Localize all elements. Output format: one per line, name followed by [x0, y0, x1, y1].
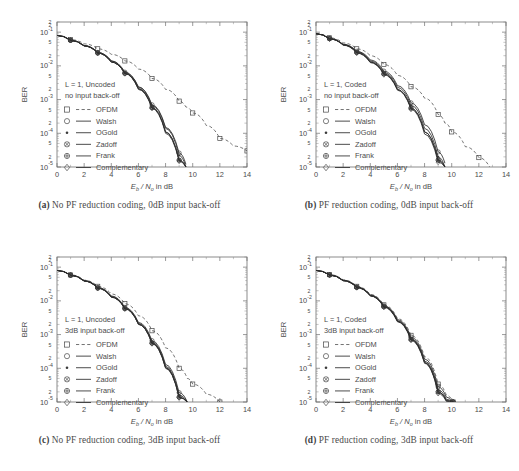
caption-b: (b) PF reduction coding, 0dB input back-…: [259, 200, 519, 210]
svg-text:-3: -3: [48, 328, 53, 334]
svg-text:3dB input back-off: 3dB input back-off: [65, 326, 125, 335]
svg-text:Eb / No in dB: Eb / No in dB: [131, 182, 173, 192]
svg-text:10: 10: [40, 364, 48, 373]
svg-text:5: 5: [308, 39, 311, 45]
svg-text:OFDM: OFDM: [355, 340, 377, 349]
svg-text:10: 10: [40, 296, 48, 305]
svg-text:2: 2: [49, 22, 52, 28]
svg-text:10: 10: [448, 170, 456, 179]
svg-text:-5: -5: [48, 395, 53, 401]
svg-text:2: 2: [82, 405, 86, 414]
svg-text:8: 8: [423, 405, 427, 414]
svg-text:L = 1, Coded: L = 1, Coded: [324, 80, 366, 89]
svg-text:14: 14: [243, 405, 251, 414]
svg-text:OFDM: OFDM: [96, 340, 118, 349]
svg-text:10: 10: [40, 330, 48, 339]
svg-text:5: 5: [308, 107, 311, 113]
svg-text:10: 10: [40, 61, 48, 70]
svg-text:5: 5: [308, 342, 311, 348]
svg-text:5: 5: [49, 342, 52, 348]
svg-text:Zadoff: Zadoff: [355, 375, 377, 384]
svg-text:2: 2: [49, 257, 52, 263]
svg-text:-2: -2: [307, 59, 312, 65]
svg-text:Complementary: Complementary: [355, 163, 407, 172]
svg-text:0: 0: [314, 405, 318, 414]
svg-text:10: 10: [40, 28, 48, 37]
caption-c: (c) No PF reduction coding, 3dB input ba…: [0, 435, 259, 445]
svg-text:BER: BER: [279, 321, 288, 337]
panel-d: 0246810121410-1210-25210-35210-45210-552…: [259, 235, 519, 471]
svg-text:8: 8: [164, 170, 168, 179]
svg-text:10: 10: [299, 364, 307, 373]
svg-text:2: 2: [308, 22, 311, 28]
svg-text:12: 12: [216, 405, 224, 414]
svg-text:OFDM: OFDM: [355, 105, 377, 114]
svg-text:10: 10: [40, 263, 48, 272]
svg-text:-5: -5: [307, 395, 312, 401]
svg-text:5: 5: [49, 274, 52, 280]
svg-text:2: 2: [308, 86, 311, 92]
svg-text:-4: -4: [48, 127, 53, 133]
svg-text:-3: -3: [307, 328, 312, 334]
svg-text:2: 2: [341, 170, 345, 179]
svg-text:10: 10: [299, 28, 307, 37]
svg-text:Frank: Frank: [355, 151, 374, 160]
svg-text:10: 10: [189, 170, 197, 179]
svg-text:Walsh: Walsh: [355, 352, 375, 361]
caption-a-text: No PF reduction coding, 0dB input back-o…: [52, 200, 221, 210]
svg-text:2: 2: [49, 321, 52, 327]
svg-text:10: 10: [40, 95, 48, 104]
svg-text:2: 2: [49, 86, 52, 92]
svg-text:L = 1, Coded: L = 1, Coded: [324, 315, 366, 324]
panel-a: 0246810121410-1210-25210-35210-45210-552…: [0, 0, 259, 235]
svg-text:Frank: Frank: [355, 386, 374, 395]
plot-b: 0246810121410-1210-25210-35210-45210-552…: [259, 0, 519, 196]
svg-text:10: 10: [299, 163, 307, 172]
svg-text:12: 12: [475, 405, 483, 414]
svg-text:BER: BER: [20, 321, 29, 337]
svg-text:2: 2: [308, 120, 311, 126]
svg-text:5: 5: [49, 107, 52, 113]
svg-text:OFDM: OFDM: [96, 105, 118, 114]
caption-b-label: (b): [305, 200, 317, 210]
svg-text:Zadoff: Zadoff: [96, 375, 118, 384]
svg-text:0: 0: [55, 170, 59, 179]
svg-text:Walsh: Walsh: [355, 117, 375, 126]
svg-text:Complementary: Complementary: [96, 398, 148, 407]
svg-text:10: 10: [299, 129, 307, 138]
svg-text:BER: BER: [279, 86, 288, 102]
svg-text:2: 2: [49, 154, 52, 160]
svg-text:10: 10: [448, 405, 456, 414]
svg-text:Zadoff: Zadoff: [96, 140, 118, 149]
svg-text:2: 2: [308, 321, 311, 327]
svg-text:Eb / No in dB: Eb / No in dB: [131, 417, 173, 427]
svg-text:14: 14: [502, 170, 510, 179]
svg-text:2: 2: [82, 170, 86, 179]
svg-text:OGold: OGold: [96, 128, 117, 137]
svg-text:0: 0: [55, 405, 59, 414]
svg-text:10: 10: [189, 405, 197, 414]
svg-text:2: 2: [49, 355, 52, 361]
svg-text:12: 12: [475, 170, 483, 179]
svg-text:0: 0: [314, 170, 318, 179]
svg-text:5: 5: [49, 375, 52, 381]
svg-text:5: 5: [49, 308, 52, 314]
svg-text:5: 5: [49, 73, 52, 79]
svg-text:10: 10: [299, 263, 307, 272]
svg-text:no input back-off: no input back-off: [65, 91, 120, 100]
svg-text:14: 14: [502, 405, 510, 414]
svg-text:L = 1, Uncoded: L = 1, Uncoded: [65, 80, 115, 89]
svg-text:3dB input back-off: 3dB input back-off: [324, 326, 384, 335]
svg-text:-4: -4: [307, 362, 312, 368]
svg-text:2: 2: [49, 53, 52, 59]
svg-text:10: 10: [299, 296, 307, 305]
svg-text:Walsh: Walsh: [96, 352, 116, 361]
caption-d-label: (d): [305, 435, 317, 445]
svg-text:10: 10: [40, 398, 48, 407]
caption-c-text: No PF reduction coding, 3dB input back-o…: [52, 435, 221, 445]
svg-text:10: 10: [299, 398, 307, 407]
svg-text:OGold: OGold: [355, 363, 376, 372]
svg-text:8: 8: [164, 405, 168, 414]
svg-text:10: 10: [40, 129, 48, 138]
svg-text:10: 10: [299, 95, 307, 104]
